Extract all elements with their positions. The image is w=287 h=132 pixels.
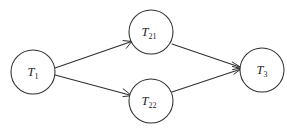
edge-line — [172, 69, 241, 92]
edge-t1-to-t21 — [55, 41, 132, 68]
edge-line — [55, 42, 132, 69]
edge-line — [55, 75, 132, 96]
node-label-subscript: 21 — [148, 31, 156, 40]
node-group: T1 T21 T22 T3 — [11, 10, 284, 123]
node-label-subscript: 3 — [263, 69, 267, 78]
node-label-subscript: 22 — [148, 100, 156, 109]
task-graph-diagram: T1 T21 T22 T3 — [0, 0, 287, 132]
edge-line — [172, 44, 241, 68]
node-t21[interactable]: T21 — [129, 10, 173, 54]
node-t1[interactable]: T1 — [11, 50, 55, 94]
node-t22[interactable]: T22 — [129, 79, 173, 123]
node-label-subscript: 1 — [34, 71, 38, 80]
edge-t21-to-t3 — [172, 44, 241, 70]
edge-t1-to-t22 — [55, 75, 132, 97]
node-t3[interactable]: T3 — [240, 48, 284, 92]
graph-canvas: T1 T21 T22 T3 — [0, 0, 287, 132]
edge-t22-to-t3 — [172, 66, 241, 92]
